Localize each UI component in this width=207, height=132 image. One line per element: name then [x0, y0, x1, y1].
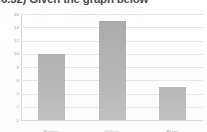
y-tick-label-2: 2	[3, 104, 19, 109]
y-tick-label-10: 10	[3, 51, 19, 56]
bar-brown	[38, 54, 65, 120]
y-tick-label-16: 16	[3, 12, 19, 17]
y-tick-label-0: 0	[3, 118, 19, 123]
x-tick-label-yellow: Yellow	[82, 129, 142, 132]
bar-chart: 1614121086420 BrownYellowBlack	[0, 9, 207, 132]
x-axis-tick-labels: BrownYellowBlack	[21, 127, 203, 132]
y-tick-label-8: 8	[3, 65, 19, 70]
y-tick-label-14: 14	[3, 25, 19, 30]
x-tick-label-brown: Brown	[21, 129, 81, 132]
y-tick-label-12: 12	[3, 38, 19, 43]
bar-black	[159, 87, 186, 120]
gridline-0	[21, 120, 203, 121]
bar-yellow	[99, 21, 126, 120]
plot-area	[21, 14, 203, 120]
y-tick-label-6: 6	[3, 78, 19, 83]
screenshot-page: 6.32) Given the graph below 161412108642…	[0, 0, 207, 132]
gridline-16	[21, 14, 203, 15]
y-tick-label-4: 4	[3, 91, 19, 96]
y-axis-tick-labels: 1614121086420	[0, 14, 19, 121]
x-tick-label-black: Black	[143, 129, 203, 132]
question-heading: 6.32) Given the graph below	[1, 0, 206, 6]
